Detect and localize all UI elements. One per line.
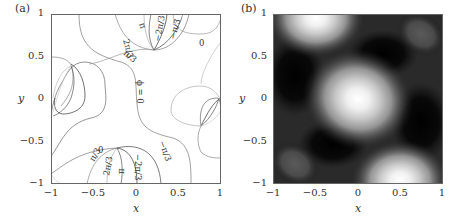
y-tick: −0.5	[14, 135, 44, 146]
x-tick: −0.5	[78, 187, 108, 198]
x-axis-label: x	[355, 202, 361, 215]
y-tick: −0.5	[237, 135, 267, 146]
contour-label: −2π/3	[133, 154, 143, 180]
y-tick: 1	[237, 7, 267, 18]
y-tick: 1	[14, 7, 44, 18]
contour-label: 0	[199, 38, 204, 48]
panel-b: (b) 1 0.5 0 −0.5 −1 y −1 −0.5 0 0.5 1 x	[229, 0, 458, 223]
x-tick: −1	[258, 187, 288, 198]
contour-lines: ϕ = 0 2π/3 π −2π/3 −π/3 π/3 0 0 π/3 2π/3…	[51, 14, 221, 184]
x-tick: 0	[121, 187, 151, 198]
panel-a: (a) 1 0.5 0 −0.5 −1 y −1 −0.5 0 0.5 1 x	[0, 0, 229, 223]
x-axis-label: x	[133, 202, 139, 215]
y-tick: 0.5	[14, 50, 44, 61]
y-tick: 0.5	[237, 50, 267, 61]
heatmap-plot-area	[273, 14, 443, 184]
contour-label: ϕ = 0	[135, 80, 145, 104]
contour-label: 2π/3	[101, 156, 114, 177]
contour-label: π	[116, 168, 126, 174]
x-tick: 0.5	[163, 187, 193, 198]
heatmap	[273, 14, 443, 184]
x-tick: 0	[343, 187, 373, 198]
contour-label: −π/3	[157, 139, 174, 162]
contour-plot-area: ϕ = 0 2π/3 π −2π/3 −π/3 π/3 0 0 π/3 2π/3…	[51, 14, 221, 184]
x-tick: −0.5	[300, 187, 330, 198]
x-tick: −1	[36, 187, 66, 198]
y-axis-label: y	[239, 92, 245, 105]
contour-label: −π/3	[167, 18, 182, 41]
contour-label: −2π/3	[152, 15, 166, 43]
x-tick: 1	[427, 187, 457, 198]
x-tick: 0.5	[385, 187, 415, 198]
contour-label: π	[137, 21, 148, 30]
y-axis-label: y	[18, 92, 24, 105]
